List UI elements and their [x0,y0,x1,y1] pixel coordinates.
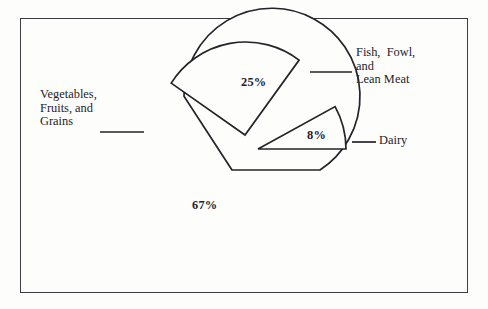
slice-value-dairy: 8% [307,128,326,143]
callout-label-dairy: Dairy [379,134,407,148]
callout-label-fish-fowl-lean-meat: Fish, Fowl, and Lean Meat [356,46,415,87]
slice-value-fish-fowl-lean-meat: 25% [241,75,266,90]
pie-chart-figure: ··············· Fish, Fowl, and Lean Mea… [0,0,488,309]
slice-value-vegetables-fruits-grains: 67% [192,198,217,213]
callout-label-vegetables-fruits-grains: Vegetables, Fruits, and Grains [40,88,97,129]
